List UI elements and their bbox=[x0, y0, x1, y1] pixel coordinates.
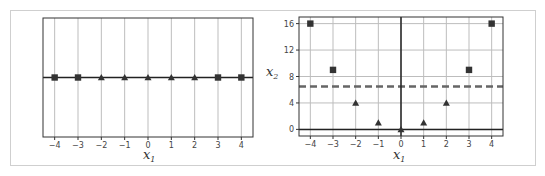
chart-canvas: −4−3−2−101234 −4−3−2−1012340481216 x1 x1… bbox=[0, 0, 545, 176]
square-marker bbox=[215, 74, 221, 80]
x-tick-label: 2 bbox=[444, 140, 449, 149]
left-plot: −4−3−2−101234 bbox=[43, 18, 253, 150]
x-tick-label: −3 bbox=[72, 141, 84, 150]
square-marker bbox=[51, 74, 57, 80]
right-plot: −4−3−2−1012340481216 bbox=[284, 17, 503, 149]
right-ylabel: x2 bbox=[266, 64, 278, 81]
x-tick-label: 4 bbox=[239, 141, 244, 150]
x-tick-label: −4 bbox=[304, 140, 316, 149]
x-tick-label: 1 bbox=[169, 141, 174, 150]
square-marker bbox=[330, 67, 336, 73]
x-tick-label: 2 bbox=[192, 141, 197, 150]
square-marker bbox=[466, 67, 472, 73]
y-tick-label: 12 bbox=[284, 46, 294, 55]
square-marker bbox=[75, 74, 81, 80]
y-tick-label: 4 bbox=[289, 99, 294, 108]
square-marker bbox=[488, 20, 494, 26]
x-tick-label: −2 bbox=[350, 140, 362, 149]
x-tick-label: 3 bbox=[466, 140, 471, 149]
x-tick-label: −3 bbox=[327, 140, 339, 149]
square-marker bbox=[238, 74, 244, 80]
y-tick-label: 0 bbox=[289, 125, 294, 134]
x-tick-label: −4 bbox=[49, 141, 61, 150]
x-tick-label: 1 bbox=[421, 140, 426, 149]
triangle-marker bbox=[375, 119, 382, 125]
x-tick-label: −2 bbox=[95, 141, 107, 150]
y-tick-label: 8 bbox=[289, 73, 294, 82]
y-tick-label: 16 bbox=[284, 20, 294, 29]
triangle-marker bbox=[420, 119, 427, 125]
square-marker bbox=[307, 20, 313, 26]
x-tick-label: 4 bbox=[489, 140, 494, 149]
x-tick-label: −1 bbox=[119, 141, 131, 150]
right-xlabel: x1 bbox=[393, 147, 405, 164]
x-tick-label: −1 bbox=[372, 140, 384, 149]
left-xlabel: x1 bbox=[143, 147, 155, 164]
x-tick-label: 3 bbox=[215, 141, 220, 150]
